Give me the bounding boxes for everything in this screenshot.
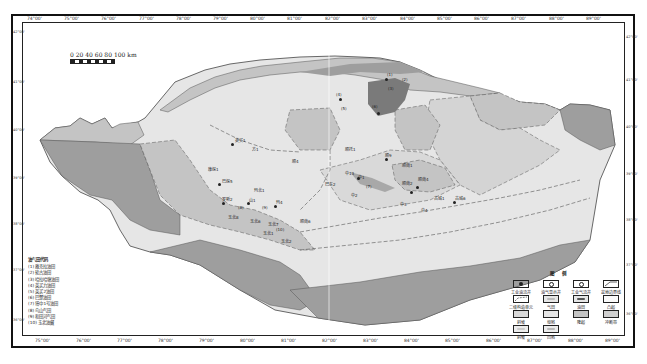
gas-well-icon [573,280,589,288]
place-label: 中4 [421,207,428,213]
place-label: (2) [402,77,408,82]
rise-icon [573,310,589,318]
well-marker [416,186,419,189]
well-marker [410,191,413,194]
legend-item: 油气显示井 [538,280,564,295]
place-label: 巴东2 [325,181,336,187]
field-codes-panel: 油气田代码 (1) 雅克拉油田 (2) 轮古油田 (3) 哈拉哈塘油田 (4) … [28,257,59,326]
show-well-icon [543,280,559,288]
legend-item: 斜坡 [508,310,534,325]
legend-item: 冲断带 [598,310,624,325]
gas-field-icon [543,295,559,303]
place-label: 顺南4 [418,176,429,182]
legend-item: 盆地边界线 [598,280,624,295]
oil-field-icon [573,295,589,303]
place-label: 山1 [249,197,256,203]
uplift-icon [603,295,619,303]
oil-well-icon [513,280,529,288]
place-label: 玛北1 [254,187,265,193]
place-label: (5) [341,106,347,111]
well-marker [222,202,225,205]
legend-item: 工业油流井 [508,280,534,295]
place-label: 中13 [345,170,354,176]
well-marker [247,202,250,205]
slope-icon [513,310,529,318]
place-label: 玉北2 [281,238,292,244]
place-label: 玉北8 [228,214,239,220]
place-label: 玉北6 [250,218,261,224]
legend-item: 凹陷 [538,325,564,340]
place-label: 巴探5 [222,178,233,184]
well-marker [385,158,388,161]
well-marker [218,183,221,186]
field-code-item: (10) 玉北油藏 [28,320,59,326]
place-label: 方1 [252,146,259,152]
place-label: 顺南6 [300,218,311,224]
place-label: 玉北1 [263,230,274,236]
field-code-item: (3) 哈拉哈塘油田 [28,277,59,283]
field-code-item: (7) 塔中1号油田 [28,301,59,307]
well-marker [357,177,360,180]
place-label: (6) [372,104,378,109]
well-marker [339,98,342,101]
legend-item: 坳陷 [538,310,564,325]
place-label: 顺南2 [402,180,413,186]
well-marker [453,201,456,204]
place-label: (4) [336,92,342,97]
place-label: 康探1 [208,166,219,172]
legend-item: 工业气流井 [568,280,594,295]
place-label: 古城1 [434,195,445,201]
legend-item: 斜坡 [508,325,534,340]
place-label: (9) [262,205,268,210]
legend-item: 油田 [568,295,594,310]
place-label: 英买1 [235,137,246,143]
place-label: 中2 [351,192,358,198]
thrust-belt-icon [603,310,619,318]
well-marker [274,205,277,208]
place-label: 顺4 [292,158,299,164]
secondary-unit-icon [513,295,529,303]
legend-item: 二级构造单元 [508,295,534,310]
well-marker [231,143,234,146]
legend-item: 隆起 [568,310,594,325]
place-label: (8) [238,205,244,210]
legend-title: 图 例 [550,270,569,276]
place-label: 玛4 [276,199,283,205]
place-label: 顺托1 [345,146,356,152]
place-label: 古城6 [455,195,466,201]
place-label: 顺南1 [402,162,413,168]
place-label: (1) [387,72,393,77]
field-codes-title: 油气田代码 [28,257,59,263]
place-label: (10) [276,227,284,232]
place-label: 中3 [400,201,407,207]
place-label: (3) [388,86,394,91]
basin-boundary-icon [603,280,619,288]
well-marker [385,78,388,81]
place-label: (7) [366,184,372,189]
scale-label: 0 20 40 60 80 100 km [70,51,137,58]
slope2-icon [513,325,529,333]
sag-icon [543,325,559,333]
well-marker [377,112,380,115]
legend-item: 凸起 [598,295,624,310]
depression-icon [543,310,559,318]
scale-bar [70,59,115,64]
legend-item: 气田 [538,295,564,310]
